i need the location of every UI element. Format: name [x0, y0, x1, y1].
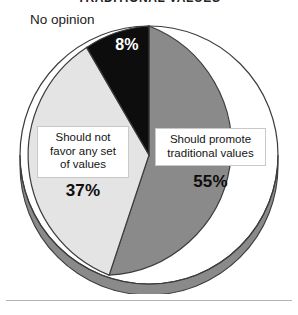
- label-no-opinion: No opinion: [30, 12, 95, 27]
- label-no-favor-line-1: Should not: [43, 131, 123, 145]
- label-no-favor-line-3: of values: [43, 158, 123, 172]
- value-no-opinion: 8%: [105, 36, 149, 54]
- value-no-favor: 37%: [37, 181, 129, 201]
- pie-chart-figure: TRADITIONAL VALUES No opinion 8% Should …: [0, 0, 298, 315]
- chart-title: TRADITIONAL VALUES: [0, 0, 298, 5]
- label-box-no-favor: Should not favor any set of values: [37, 126, 129, 178]
- label-promote-line-1: Should promote: [161, 133, 260, 147]
- label-no-favor-line-2: favor any set: [43, 145, 123, 159]
- label-promote-line-2: traditional values: [161, 147, 260, 161]
- footer-divider: [6, 300, 292, 301]
- chart-title-clipped: TRADITIONAL VALUES: [0, 0, 298, 5]
- value-promote: 55%: [155, 172, 266, 192]
- label-box-promote: Should promote traditional values: [155, 128, 266, 166]
